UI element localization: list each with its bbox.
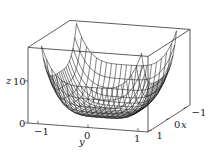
plot-box-back [28, 20, 190, 105]
x-tick-label: −1 [192, 107, 207, 118]
box-edge [70, 20, 190, 29]
y-axis-label: y [78, 136, 85, 147]
z-axis-label: z [5, 75, 12, 86]
y-tick-label: 0 [84, 130, 90, 141]
x-tick-label: 1 [157, 130, 163, 141]
wireframe-surface [42, 23, 177, 118]
grid-line-y [47, 37, 82, 90]
z-tick-label: 10 [13, 76, 26, 87]
y-tick-label: −1 [34, 126, 49, 137]
box-edge [148, 29, 190, 56]
grid-line-y [142, 31, 177, 84]
x-tick-label: 0 [174, 119, 180, 130]
x-axis-label: x [181, 119, 187, 130]
surface-plot: −101−101010 z y x [0, 0, 208, 156]
x-tick [149, 130, 152, 131]
x-tick [166, 119, 169, 120]
y-tick-label: 1 [134, 133, 140, 144]
x-tick [184, 107, 187, 108]
box-edge [28, 20, 70, 47]
z-tick-label: 0 [19, 118, 25, 129]
